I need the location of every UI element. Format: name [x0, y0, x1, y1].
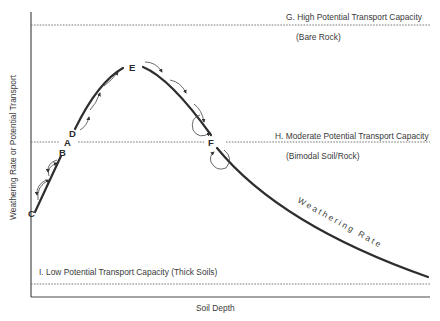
point-f-label: F [208, 137, 214, 148]
x-axis-label: Soil Depth [196, 303, 235, 313]
weathering-transport-diagram: G. High Potential Transport Capacity (Ba… [0, 0, 440, 321]
loop-arrow-icon [192, 115, 210, 136]
line-h-sublabel: (Bimodal Soil/Rock) [286, 151, 360, 161]
line-g-label: G. High Potential Transport Capacity [286, 12, 423, 22]
point-b-label: B [59, 147, 66, 158]
weathering-curve-falling [143, 67, 211, 135]
weathering-curve-rising [35, 156, 61, 212]
line-i-label: I. Low Potential Transport Capacity (Thi… [39, 267, 217, 277]
line-h-label: H. Moderate Potential Transport Capacity [275, 131, 429, 141]
y-axis-label: Weathering Rate or Potential Transport [8, 74, 18, 220]
arrow-icon [170, 80, 186, 93]
point-c-label: C [28, 208, 35, 219]
arrow-icon [104, 72, 118, 86]
weathering-curve-rising [75, 68, 123, 129]
line-g-sublabel: (Bare Rock) [296, 32, 341, 42]
arrow-icon [145, 62, 162, 72]
point-e-label: E [129, 62, 135, 73]
point-d-label: D [69, 128, 76, 139]
